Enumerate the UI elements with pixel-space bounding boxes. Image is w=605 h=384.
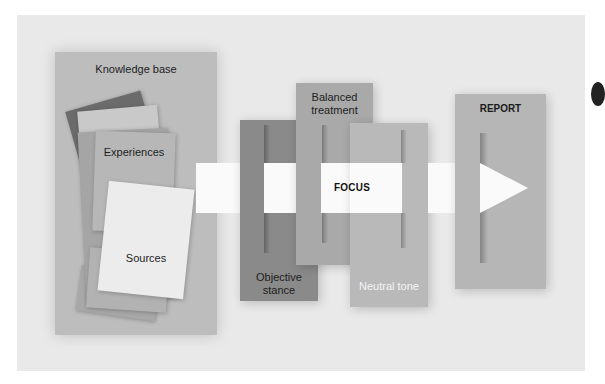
focus-arrow-shaft — [428, 163, 455, 213]
slot-shadow — [322, 213, 328, 243]
objective-stance-label: Objective stance — [240, 271, 318, 297]
doc-sources — [97, 181, 194, 299]
slot-shadow — [264, 213, 270, 253]
report-label: REPORT — [460, 102, 542, 115]
experiences-label: Experiences — [94, 146, 174, 159]
label-line: Objective — [240, 271, 318, 284]
edge-mark — [591, 82, 605, 106]
neutral-tone-label: Neutral tone — [350, 280, 428, 293]
knowledge-base-title: Knowledge base — [55, 63, 217, 76]
slot-shadow — [264, 125, 270, 163]
focus-arrow-shaft — [196, 163, 240, 213]
label-line: Balanced — [296, 91, 373, 104]
slot-shadow — [401, 213, 407, 248]
sources-label: Sources — [103, 252, 189, 265]
label-line: stance — [240, 284, 318, 297]
slot-shadow — [322, 125, 328, 163]
focus-arrow-shaft — [264, 163, 296, 213]
balanced-treatment-label: Balanced treatment — [296, 91, 373, 117]
focus-label: FOCUS — [334, 181, 406, 193]
arrowhead-icon — [480, 163, 530, 213]
slot-shadow — [401, 130, 407, 163]
label-line: treatment — [296, 104, 373, 117]
